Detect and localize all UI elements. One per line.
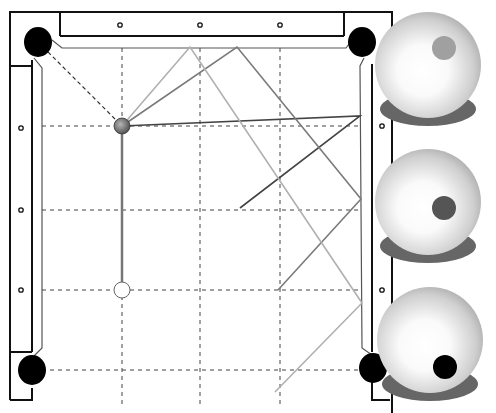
spin-bottom-right [377, 287, 483, 401]
cue-ball-sphere [375, 149, 481, 255]
spin-top-right [375, 12, 481, 126]
diamond-marker [19, 288, 23, 292]
dark-path [122, 116, 360, 208]
diamond-marker [278, 23, 282, 27]
diamond-marker [19, 126, 23, 130]
object-ball [114, 118, 130, 134]
spin-contact-dot [432, 196, 456, 220]
ball-paths [122, 47, 362, 392]
light-path [122, 47, 362, 392]
pockets [18, 27, 387, 385]
cushions [34, 40, 372, 356]
cue-ball [114, 282, 130, 298]
diamond-marker [19, 208, 23, 212]
spin-indicators [375, 12, 483, 401]
spin-center-right [375, 149, 481, 263]
pocket-top-left [24, 27, 52, 57]
aim-line [38, 42, 122, 126]
spin-contact-dot [433, 355, 457, 379]
cue-ball-sphere [377, 287, 483, 393]
diagram-canvas [0, 0, 496, 413]
diamond-marker [198, 23, 202, 27]
pocket-bottom-left [18, 355, 46, 385]
cue-ball-sphere [375, 12, 481, 118]
diamond-marker [118, 23, 122, 27]
diamond-marker [380, 288, 384, 292]
diamond-marker [380, 124, 384, 128]
pocket-top-right [348, 27, 376, 57]
billiards-diagram [0, 0, 496, 413]
spin-contact-dot [432, 36, 456, 60]
